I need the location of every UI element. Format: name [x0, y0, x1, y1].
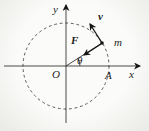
x-axis-label: x	[128, 68, 134, 80]
velocity-vector-arrow	[90, 24, 102, 43]
velocity-label: v	[98, 10, 103, 22]
force-label: F	[70, 34, 79, 46]
particle-dot	[100, 41, 104, 45]
force-vector-arrow	[84, 44, 101, 55]
origin-label: O	[52, 68, 60, 80]
mass-label: m	[114, 36, 122, 48]
point-a-label: A	[104, 69, 112, 81]
circular-motion-diagram: y x O A θ F v m	[0, 0, 149, 131]
theta-label: θ	[77, 54, 83, 66]
y-axis-label: y	[52, 3, 58, 15]
figure-canvas: y x O A θ F v m	[0, 0, 149, 131]
